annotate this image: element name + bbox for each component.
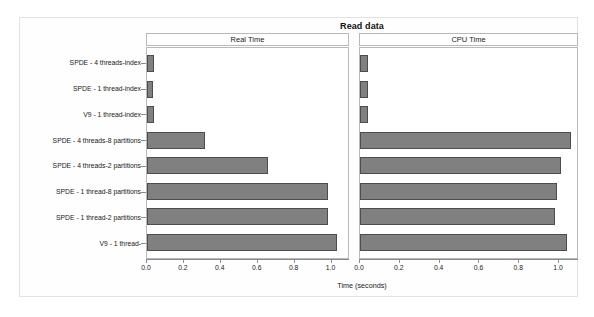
bar-row — [147, 54, 348, 74]
bar — [360, 157, 561, 174]
y-axis-tick-label: SPDE - 4 threads-8 partitions — [28, 130, 141, 150]
bar-series-cpu-time — [360, 48, 577, 258]
bar-row — [360, 130, 577, 150]
x-axis-tick-label: 0.4 — [215, 264, 224, 271]
x-axis-tick — [331, 259, 332, 263]
y-axis-tick-label: SPDE - 4 threads-2 partitions — [28, 156, 141, 176]
bar-row — [360, 79, 577, 99]
chart-figure: Read data Real Time CPU Time SPDE - 4 th… — [0, 0, 594, 317]
bar-row — [360, 54, 577, 74]
y-axis-tick-label: V9 - 1 thread- — [28, 233, 141, 253]
bar — [147, 132, 205, 149]
bar-row — [360, 156, 577, 176]
bar — [360, 132, 571, 149]
bar-row — [147, 105, 348, 125]
bar-row — [360, 207, 577, 227]
x-axis-tick-label: 0.4 — [434, 264, 443, 271]
panel-header-label: Real Time — [231, 35, 265, 44]
bar — [147, 106, 154, 123]
x-axis-title: Time (seconds) — [146, 281, 578, 290]
bar — [360, 234, 567, 251]
x-axis-line — [359, 259, 578, 260]
bar-row — [147, 156, 348, 176]
panel-header-real-time: Real Time — [146, 33, 349, 46]
bar — [360, 208, 555, 225]
bar — [147, 157, 268, 174]
bar-row — [147, 232, 348, 252]
bar-row — [147, 181, 348, 201]
x-axis-tick — [558, 259, 559, 263]
bar-series-real-time — [147, 48, 348, 258]
bar — [360, 81, 368, 98]
bar-row — [360, 105, 577, 125]
plot-area-cpu-time — [359, 47, 578, 259]
bar — [147, 234, 337, 251]
x-axis-tick-label: 0.0 — [354, 264, 363, 271]
bar — [147, 81, 153, 98]
x-axis-tick — [439, 259, 440, 263]
x-axis-tick-label: 0.2 — [178, 264, 187, 271]
x-axis-tick — [399, 259, 400, 263]
y-axis-tick-label: SPDE - 4 threads-index — [28, 53, 141, 73]
bar-row — [360, 181, 577, 201]
x-axis-tick-label: 0.8 — [514, 264, 523, 271]
x-axis-tick — [146, 259, 147, 263]
x-axis-cpu-time: 0.00.20.40.60.81.0 — [359, 259, 578, 277]
plot-area-real-time — [146, 47, 349, 259]
x-axis-tick-label: 0.6 — [252, 264, 261, 271]
y-axis-labels: SPDE - 4 threads-index SPDE - 1 thread-i… — [28, 47, 141, 259]
y-axis-tick-label: SPDE - 1 thread-index — [28, 79, 141, 99]
bar-row — [147, 207, 348, 227]
bar-row — [147, 79, 348, 99]
x-axis-tick-label: 0.6 — [474, 264, 483, 271]
panel-header-cpu-time: CPU Time — [359, 33, 578, 46]
x-axis-tick-label: 0.8 — [289, 264, 298, 271]
x-axis-tick — [183, 259, 184, 263]
bar — [360, 106, 368, 123]
x-axis-real-time: 0.00.20.40.60.81.0 — [146, 259, 349, 277]
x-axis-tick — [359, 259, 360, 263]
x-axis-tick-label: 1.0 — [553, 264, 562, 271]
chart-title: Read data — [146, 21, 578, 31]
bar — [147, 183, 328, 200]
x-axis-tick — [294, 259, 295, 263]
x-axis-tick-label: 0.0 — [141, 264, 150, 271]
y-axis-tick-label: SPDE - 1 thread-2 partitions — [28, 207, 141, 227]
bar-row — [147, 130, 348, 150]
x-axis-tick — [518, 259, 519, 263]
y-axis-tick-label: SPDE - 1 thread-8 partitions — [28, 182, 141, 202]
x-axis-tick — [257, 259, 258, 263]
bar — [360, 183, 557, 200]
bar — [147, 55, 154, 72]
x-axis-tick-label: 1.0 — [326, 264, 335, 271]
panel-header-label: CPU Time — [451, 35, 485, 44]
bar — [147, 208, 328, 225]
bar — [360, 55, 368, 72]
y-axis-tick-label: V9 - 1 thread-index — [28, 104, 141, 124]
x-axis-line — [146, 259, 349, 260]
x-axis-tick-label: 0.2 — [394, 264, 403, 271]
bar-row — [360, 232, 577, 252]
x-axis-tick — [478, 259, 479, 263]
x-axis-tick — [220, 259, 221, 263]
